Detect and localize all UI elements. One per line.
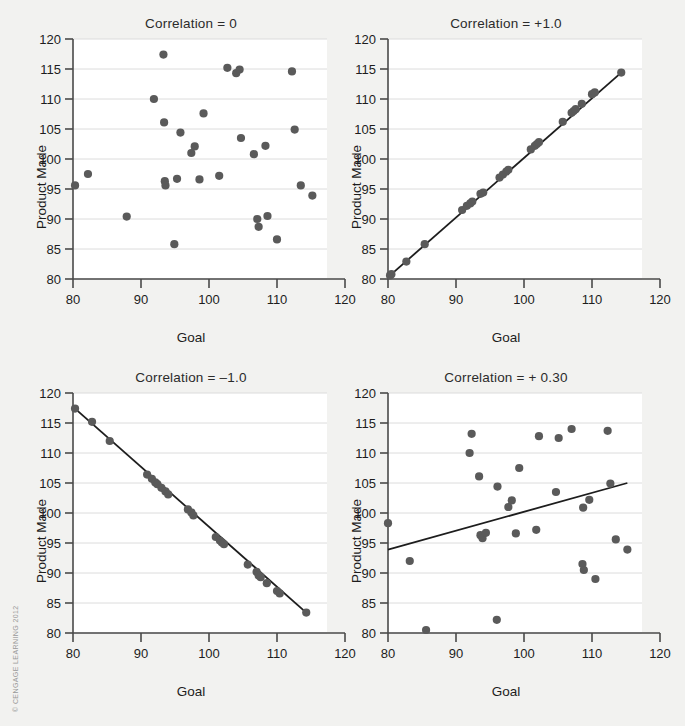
data-point [263, 212, 271, 220]
copyright-notice: © CENGAGE LEARNING 2012 [12, 605, 19, 712]
data-point [71, 181, 79, 189]
data-point [421, 240, 429, 248]
x-tick-label: 90 [134, 292, 148, 307]
data-point [493, 616, 501, 624]
chart-panel-correlation-plus-point-three: Correlation = + 0.30 Product Made Goal 8… [341, 368, 671, 713]
data-point [88, 418, 96, 426]
figure-canvas: Correlation = 0 Product Made Goal 808590… [0, 0, 685, 726]
x-tick-label: 90 [449, 292, 463, 307]
data-point [288, 67, 296, 75]
y-tick-label: 120 [354, 32, 376, 47]
data-point [591, 575, 599, 583]
y-tick-label: 120 [39, 32, 61, 47]
data-point [123, 213, 131, 221]
data-point [623, 546, 631, 554]
data-point [159, 51, 167, 59]
y-tick-label: 80 [47, 272, 61, 287]
data-point [215, 172, 223, 180]
y-tick-label: 100 [354, 506, 376, 521]
x-tick-label: 100 [198, 646, 220, 661]
x-tick-label: 100 [513, 292, 535, 307]
data-point [555, 434, 563, 442]
x-tick-label: 120 [649, 292, 671, 307]
data-point [176, 129, 184, 137]
data-point [568, 425, 576, 433]
data-point [253, 215, 261, 223]
data-point [191, 142, 199, 150]
y-tick-label: 110 [40, 446, 61, 461]
x-tick-label: 100 [513, 646, 535, 661]
data-point [263, 579, 271, 587]
data-point [257, 573, 265, 581]
data-point [384, 519, 392, 527]
data-point [585, 496, 593, 504]
data-point [468, 198, 476, 206]
y-tick-label: 115 [355, 416, 376, 431]
data-point [220, 540, 228, 548]
data-point [402, 258, 410, 266]
y-tick-label: 90 [47, 212, 61, 227]
y-tick-label: 105 [39, 476, 61, 491]
data-point [606, 480, 614, 488]
data-point [422, 626, 430, 634]
data-point [199, 109, 207, 117]
data-point [302, 609, 310, 617]
data-point [552, 488, 560, 496]
data-point [578, 100, 586, 108]
y-tick-label: 85 [362, 242, 376, 257]
x-tick-label: 80 [381, 292, 395, 307]
y-tick-label: 100 [354, 152, 376, 167]
scatter-plot-area: 808590951001051101151208090100110120 [26, 14, 356, 359]
data-point [493, 483, 501, 491]
data-point [532, 526, 540, 534]
y-tick-label: 90 [362, 212, 376, 227]
y-tick-label: 85 [47, 242, 61, 257]
data-point [250, 150, 258, 158]
data-point [406, 557, 414, 565]
data-point [236, 66, 244, 74]
x-tick-label: 110 [582, 292, 603, 307]
data-point [512, 529, 520, 537]
x-tick-label: 90 [449, 646, 463, 661]
x-tick-label: 80 [66, 646, 80, 661]
y-tick-label: 115 [40, 62, 61, 77]
y-tick-label: 95 [362, 182, 376, 197]
y-tick-label: 105 [354, 476, 376, 491]
data-point [255, 223, 263, 231]
data-point [150, 95, 158, 103]
scatter-plot-area: 808590951001051101151208090100110120 [341, 14, 671, 359]
y-tick-label: 105 [354, 122, 376, 137]
data-point [475, 472, 483, 480]
data-point [189, 511, 197, 519]
x-tick-label: 120 [649, 646, 671, 661]
y-tick-label: 115 [355, 62, 376, 77]
data-point [535, 432, 543, 440]
scatter-plot-area: 808590951001051101151208090100110120 [341, 368, 671, 713]
data-point [161, 181, 169, 189]
data-point [164, 490, 172, 498]
y-tick-label: 110 [355, 446, 376, 461]
data-point [617, 69, 625, 77]
data-point [273, 235, 281, 243]
data-point [559, 118, 567, 126]
data-point [466, 449, 474, 457]
data-point [591, 88, 599, 96]
y-tick-label: 100 [39, 152, 61, 167]
y-tick-label: 120 [354, 386, 376, 401]
data-point [244, 561, 252, 569]
y-tick-label: 80 [47, 626, 61, 641]
y-tick-label: 90 [47, 566, 61, 581]
chart-panel-correlation-minus-one: Correlation = –1.0 Product Made Goal 808… [26, 368, 356, 713]
y-tick-label: 90 [362, 566, 376, 581]
x-tick-label: 90 [134, 646, 148, 661]
data-point [572, 105, 580, 113]
data-point [387, 270, 395, 278]
y-tick-label: 95 [47, 182, 61, 197]
chart-panel-correlation-plus-one: Correlation = +1.0 Product Made Goal 808… [341, 14, 671, 359]
data-point [223, 64, 231, 72]
data-point [291, 126, 299, 134]
y-tick-label: 115 [40, 416, 61, 431]
data-point [106, 437, 114, 445]
scatter-plot-area: 808590951001051101151208090100110120 [26, 368, 356, 713]
y-tick-label: 85 [362, 596, 376, 611]
